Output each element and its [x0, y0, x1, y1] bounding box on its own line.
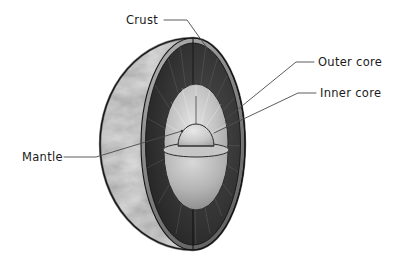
label-crust: Crust: [126, 13, 158, 27]
diagram-canvas: Crust Outer core Inner core Mantle: [0, 0, 409, 266]
planet-interior-diagram: Crust Outer core Inner core Mantle: [0, 0, 409, 266]
label-inner-core: Inner core: [320, 86, 381, 100]
label-outer-core: Outer core: [318, 55, 382, 69]
mantle-leader-endpoint: [181, 130, 184, 133]
outer-core-layer: [163, 84, 229, 210]
label-mantle: Mantle: [22, 150, 63, 164]
